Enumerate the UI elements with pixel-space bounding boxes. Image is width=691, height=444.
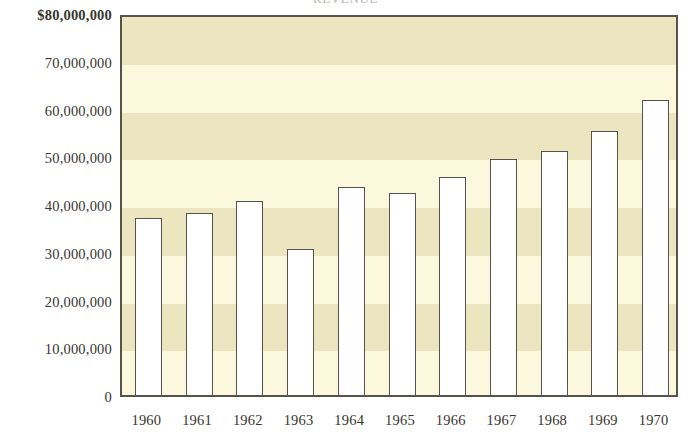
- y-tick-label: 60,000,000: [0, 104, 112, 119]
- y-tick-label: 20,000,000: [0, 295, 112, 310]
- bar: [389, 193, 416, 397]
- bar-chart: REVENUE $80,000,00070,000,00060,000,0005…: [0, 0, 691, 444]
- background-band: [122, 17, 676, 65]
- y-tick-label: 30,000,000: [0, 247, 112, 262]
- y-tick-label: 40,000,000: [0, 199, 112, 214]
- bar: [236, 201, 263, 397]
- bar: [541, 151, 568, 397]
- y-tick-label: 10,000,000: [0, 342, 112, 357]
- plot-area: [120, 15, 678, 397]
- y-axis: $80,000,00070,000,00060,000,00050,000,00…: [0, 0, 112, 444]
- x-axis: 1960196119621963196419651966196719681969…: [0, 404, 691, 444]
- bar: [186, 213, 213, 397]
- x-tick-label: 1970: [624, 412, 684, 428]
- bar: [287, 249, 314, 397]
- y-tick-label: $80,000,000: [0, 8, 112, 23]
- bar: [642, 100, 669, 397]
- bar: [135, 218, 162, 397]
- bar: [439, 177, 466, 397]
- bar: [338, 187, 365, 397]
- bar: [490, 159, 517, 397]
- background-band: [122, 65, 676, 113]
- y-tick-label: 0: [0, 390, 112, 405]
- bar: [591, 131, 618, 397]
- y-tick-label: 50,000,000: [0, 151, 112, 166]
- y-tick-label: 70,000,000: [0, 56, 112, 71]
